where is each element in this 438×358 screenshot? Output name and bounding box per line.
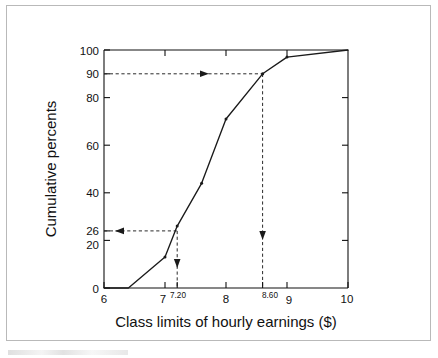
y-tick-label-60: 60 bbox=[86, 140, 99, 152]
figure-container: 100 90 80 60 40 26 20 0 bbox=[0, 0, 438, 358]
x-axis-title: Class limits of hourly earnings ($) bbox=[115, 313, 337, 330]
y-tick-label-100: 100 bbox=[80, 45, 99, 57]
ogive-chart: 100 90 80 60 40 26 20 0 bbox=[0, 0, 438, 358]
y-axis-title: Cumulative percents bbox=[42, 101, 59, 238]
x-tick-label-8-60: 8.60 bbox=[262, 291, 278, 300]
y-tick-label-40: 40 bbox=[86, 187, 99, 199]
y-tick-label-0: 0 bbox=[93, 283, 99, 295]
ogive-series bbox=[104, 50, 348, 288]
y-tick-label-90: 90 bbox=[86, 68, 99, 80]
annotation-90-down-arrow bbox=[259, 231, 266, 240]
ogive-vertex-7.0 bbox=[164, 256, 167, 259]
ogive-vertex-9.0 bbox=[286, 56, 289, 59]
x-tick-label-6: 6 bbox=[101, 293, 107, 305]
ogive-vertex-7.6 bbox=[200, 182, 203, 185]
annotation-26-guide bbox=[104, 228, 181, 288]
annotation-90-right-arrow bbox=[200, 71, 209, 78]
x-tick-label-10: 10 bbox=[341, 293, 354, 305]
annotation-90-guide bbox=[104, 71, 266, 289]
y-tick-label-20: 20 bbox=[86, 239, 99, 251]
x-axis-ticks bbox=[104, 50, 348, 288]
x-tick-label-9: 9 bbox=[286, 294, 292, 306]
x-tick-label-8: 8 bbox=[223, 293, 229, 305]
annotation-26-left-arrow bbox=[115, 228, 124, 235]
axes-group bbox=[104, 50, 348, 288]
y-axis-ticks bbox=[104, 50, 110, 288]
y-axis-tick-labels: 100 90 80 60 40 26 20 0 bbox=[80, 45, 99, 295]
annotation-26-down-arrow bbox=[174, 259, 181, 268]
ogive-vertex-8.6 bbox=[261, 72, 264, 75]
ogive-vertex-8.0 bbox=[225, 118, 228, 121]
x-tick-label-7: 7 bbox=[160, 293, 166, 305]
x-tick-label-7-20: 7.20 bbox=[170, 291, 186, 300]
y-tick-label-80: 80 bbox=[86, 92, 99, 104]
ogive-vertex-7.2 bbox=[176, 225, 179, 228]
ogive-polyline bbox=[104, 50, 348, 288]
x-axis-tick-labels: 6 7 7.20 8 8.60 9 10 bbox=[101, 291, 354, 306]
y-tick-label-26: 26 bbox=[86, 225, 99, 237]
